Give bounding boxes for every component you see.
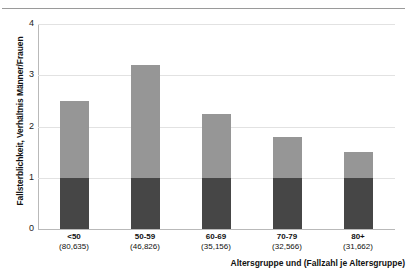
bar-segment-upper-1 [131,65,160,178]
gridline-3 [38,75,395,76]
y-tick-label-1: 1 [4,173,34,182]
y-tick-label-2: 2 [4,122,34,131]
x-category-4: 80+ [322,232,394,242]
x-axis-title: Altersgruppe und (Fallzahl je Altersgrup… [231,258,405,268]
bar-segment-upper-0 [60,101,89,178]
bar-group-4[interactable] [344,152,373,229]
x-axis-line [38,229,395,230]
figure-top-rule [2,8,405,9]
x-count-2: (35,156) [180,242,252,252]
y-axis-title: Fallsterblichkeit, Verhältnis Männer/Fra… [15,28,25,214]
y-tick-label-4: 4 [4,19,34,28]
bar-segment-base-2 [202,178,231,229]
x-category-2: 60-69 [180,232,252,242]
x-tick-label-1: 50-59 (46,826) [109,232,181,252]
x-category-1: 50-59 [109,232,181,242]
x-count-4: (31,662) [322,242,394,252]
bar-segment-upper-3 [273,137,302,178]
x-tick-label-2: 60-69 (35,156) [180,232,252,252]
plot-area [38,24,395,229]
x-tick-label-4: 80+ (31,662) [322,232,394,252]
x-tick-label-3: 70-79 (32,566) [251,232,323,252]
bar-segment-upper-4 [344,152,373,178]
bar-segment-base-1 [131,178,160,229]
x-count-1: (46,826) [109,242,181,252]
chart-figure: Fallsterblichkeit, Verhältnis Männer/Fra… [0,0,411,276]
y-tick-label-0: 0 [4,224,34,233]
bar-segment-base-4 [344,178,373,229]
bar-group-3[interactable] [273,137,302,229]
gridline-4 [38,24,395,25]
bar-group-0[interactable] [60,101,89,229]
bar-segment-upper-2 [202,114,231,178]
bar-group-1[interactable] [131,65,160,229]
y-tick-label-3: 3 [4,70,34,79]
x-count-3: (32,566) [251,242,323,252]
x-tick-label-0: <50 (80,635) [38,232,110,252]
bar-segment-base-3 [273,178,302,229]
x-category-0: <50 [38,232,110,242]
x-category-3: 70-79 [251,232,323,242]
x-count-0: (80,635) [38,242,110,252]
bar-group-2[interactable] [202,114,231,229]
bar-segment-base-0 [60,178,89,229]
